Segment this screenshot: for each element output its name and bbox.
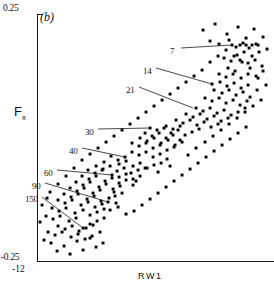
data-point (139, 137, 142, 140)
data-point (189, 168, 192, 171)
data-point (89, 181, 92, 184)
data-point (89, 153, 92, 156)
data-point (108, 197, 111, 200)
data-point (257, 44, 260, 47)
data-point (118, 176, 121, 179)
data-point (252, 105, 255, 108)
data-point (77, 233, 80, 236)
data-point (260, 99, 263, 102)
data-point (247, 62, 250, 65)
data-point (227, 67, 230, 70)
data-point (247, 73, 250, 76)
data-point (45, 215, 48, 218)
data-point (141, 204, 144, 207)
data-point (245, 126, 248, 129)
data-point (123, 167, 126, 170)
data-point (157, 192, 160, 195)
data-point (94, 206, 97, 209)
data-point (163, 127, 166, 130)
data-point (166, 149, 169, 152)
data-point (165, 186, 168, 189)
data-point (80, 204, 83, 207)
data-point (61, 231, 64, 234)
data-point (221, 92, 224, 95)
data-point (232, 73, 235, 76)
data-point (87, 201, 90, 204)
data-point (115, 202, 118, 205)
data-point (258, 51, 261, 54)
data-point (235, 46, 238, 49)
data-point (144, 132, 147, 135)
data-point (244, 107, 247, 110)
data-point (241, 61, 244, 64)
data-point (249, 67, 252, 70)
data-point (217, 55, 220, 58)
data-point (204, 141, 207, 144)
data-point (133, 210, 136, 213)
data-point (84, 238, 87, 241)
data-point (69, 253, 72, 256)
data-point (104, 180, 107, 183)
data-point (51, 207, 54, 210)
data-point (101, 203, 104, 206)
data-point (71, 199, 74, 202)
annotation-leader-line (181, 45, 232, 48)
data-point (262, 36, 265, 39)
annotation-leader-line (98, 128, 150, 129)
data-point (179, 125, 182, 128)
figure-panel-b: 0.25 -0.25 -12 RW1 Fx (b) 71421304060901… (0, 0, 274, 295)
data-point (57, 199, 60, 202)
data-point (212, 135, 215, 138)
data-point (65, 175, 68, 178)
data-point (121, 129, 124, 132)
data-point (81, 159, 84, 162)
data-point (119, 185, 122, 188)
data-point (59, 215, 62, 218)
data-point (235, 94, 238, 97)
data-point (230, 60, 233, 63)
data-point (98, 186, 101, 189)
data-point (161, 99, 164, 102)
data-point (130, 172, 133, 175)
data-point (152, 156, 155, 159)
data-point (88, 178, 91, 181)
data-point (159, 144, 162, 147)
data-point (135, 180, 138, 183)
data-point (216, 112, 219, 115)
data-point (92, 224, 95, 227)
data-point (63, 245, 66, 248)
data-point (169, 165, 172, 168)
data-point (181, 141, 184, 144)
data-point (73, 167, 76, 170)
data-point (195, 107, 198, 110)
data-point (125, 160, 128, 163)
data-point (145, 142, 148, 145)
annotation-label-40: 40 (69, 146, 78, 156)
data-point (160, 162, 163, 165)
data-point (244, 111, 247, 114)
data-point (239, 104, 242, 107)
data-point (96, 220, 99, 223)
data-point (248, 47, 251, 50)
data-point (262, 70, 265, 73)
data-point (121, 192, 124, 195)
data-point (177, 129, 180, 132)
data-point (201, 69, 204, 72)
data-point (227, 117, 230, 120)
data-point (210, 126, 213, 129)
data-point (65, 207, 68, 210)
data-point (139, 162, 142, 165)
data-point (78, 230, 81, 233)
data-point (219, 81, 222, 84)
data-point (246, 100, 249, 103)
data-point (125, 173, 128, 176)
data-point (87, 169, 90, 172)
data-point (173, 180, 176, 183)
data-point (113, 135, 116, 138)
data-point (233, 82, 236, 85)
data-point (237, 132, 240, 135)
data-point (187, 154, 190, 157)
data-point (43, 239, 46, 242)
data-point (181, 174, 184, 177)
annotation-label-7: 7 (170, 46, 174, 56)
